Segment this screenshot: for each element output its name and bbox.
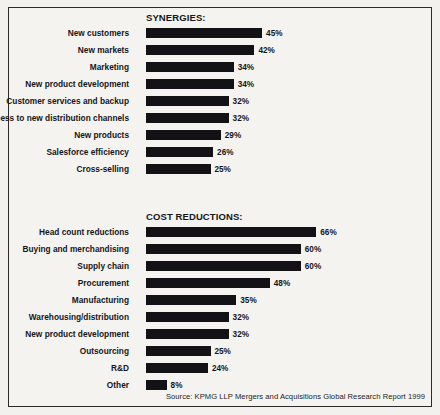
bar-category-label: New products [0, 130, 129, 140]
bar-value-label: 32% [233, 114, 249, 123]
bar [146, 227, 316, 237]
bar-category-label: New product development [0, 79, 129, 89]
chart-figure: SYNERGIES: New customers45%New markets42… [0, 0, 440, 415]
bar [146, 96, 229, 106]
bar-category-label: Manufacturing [0, 295, 129, 305]
bar-track: 32% [146, 328, 427, 340]
bar-value-label: 32% [233, 313, 249, 322]
bar-value-label: 42% [258, 46, 274, 55]
bar-value-label: 32% [233, 330, 249, 339]
bar [146, 130, 221, 140]
bar-track: 32% [146, 95, 427, 107]
bar-row: Supply chain60% [9, 259, 431, 276]
bar-category-label: Supply chain [0, 261, 129, 271]
bar-track: 25% [146, 345, 427, 357]
bar-value-label: 25% [215, 165, 231, 174]
bar-track: 25% [146, 163, 427, 175]
bar-category-label: Marketing [0, 62, 129, 72]
bar-value-label: 25% [215, 347, 231, 356]
bar [146, 346, 211, 356]
bar-value-label: 34% [238, 80, 254, 89]
bar-track: 48% [146, 277, 427, 289]
bar-track: 66% [146, 226, 427, 238]
bar-category-label: Salesforce efficiency [0, 147, 129, 157]
chart-frame: SYNERGIES: New customers45%New markets42… [8, 7, 432, 407]
bar-category-label: Outsourcing [0, 346, 129, 356]
bar-category-label: Head count reductions [0, 227, 129, 237]
bar-track: 26% [146, 146, 427, 158]
bar [146, 113, 229, 123]
source-note: Source: KPMG LLP Mergers and Acquisition… [166, 392, 425, 401]
bar-rows-synergies: New customers45%New markets42%Marketing3… [9, 26, 431, 179]
bar-row: Marketing34% [9, 60, 431, 77]
bar-category-label: Buying and merchandising [0, 244, 129, 254]
bar-category-label: Warehousing/distribution [0, 312, 129, 322]
bar [146, 244, 301, 254]
bar-track: 32% [146, 112, 427, 124]
bar-value-label: 24% [212, 364, 228, 373]
bar-value-label: 29% [225, 131, 241, 140]
bar-row: Buying and merchandising60% [9, 242, 431, 259]
bar-row: Manufacturing35% [9, 293, 431, 310]
bar-row: Outsourcing25% [9, 344, 431, 361]
bar [146, 329, 229, 339]
bar-track: 42% [146, 44, 427, 56]
bar-category-label: Procurement [0, 278, 129, 288]
bar-row: Salesforce efficiency26% [9, 145, 431, 162]
bar [146, 164, 211, 174]
bar-category-label: New customers [0, 28, 129, 38]
bar-track: 32% [146, 311, 427, 323]
bar-value-label: 45% [266, 29, 282, 38]
bar-row: New customers45% [9, 26, 431, 43]
bar-track: 29% [146, 129, 427, 141]
panel-title-synergies: SYNERGIES: [146, 12, 206, 23]
bar-track: 8% [146, 379, 427, 391]
bar-track: 60% [146, 260, 427, 272]
bar-track: 34% [146, 61, 427, 73]
bar-row: Head count reductions66% [9, 225, 431, 242]
bar [146, 312, 229, 322]
bar [146, 380, 167, 390]
bar [146, 261, 301, 271]
bar-category-label: R&D [0, 363, 129, 373]
bar-row: New markets42% [9, 43, 431, 60]
bar-row: Access to new distribution channels32% [9, 111, 431, 128]
bar-track: 60% [146, 243, 427, 255]
bar-value-label: 26% [217, 148, 233, 157]
bar-row: New product development34% [9, 77, 431, 94]
bar [146, 45, 254, 55]
bar-track: 34% [146, 78, 427, 90]
bar-category-label: New markets [0, 45, 129, 55]
bar [146, 62, 234, 72]
bar-category-label: New product development [0, 329, 129, 339]
bar [146, 28, 262, 38]
bar-row: R&D24% [9, 361, 431, 378]
panel-title-cost-reductions: COST REDUCTIONS: [146, 211, 243, 222]
bar-value-label: 32% [233, 97, 249, 106]
bar-row: New product development32% [9, 327, 431, 344]
bar-row: Customer services and backup32% [9, 94, 431, 111]
bar [146, 79, 234, 89]
bar-value-label: 34% [238, 63, 254, 72]
bar-value-label: 8% [171, 381, 183, 390]
bar [146, 295, 236, 305]
bar [146, 278, 270, 288]
bar-row: Cross-selling25% [9, 162, 431, 179]
bar-track: 24% [146, 362, 427, 374]
bar-rows-cost-reductions: Head count reductions66%Buying and merch… [9, 225, 431, 395]
bar-value-label: 66% [320, 228, 336, 237]
bar-value-label: 48% [274, 279, 290, 288]
bar-row: Warehousing/distribution32% [9, 310, 431, 327]
bar-category-label: Other [0, 380, 129, 390]
bar-track: 35% [146, 294, 427, 306]
bar-track: 45% [146, 27, 427, 39]
bar-category-label: Customer services and backup [0, 96, 129, 106]
bar-category-label: Cross-selling [0, 164, 129, 174]
bar [146, 363, 208, 373]
bar-category-label: Access to new distribution channels [0, 113, 129, 123]
bar [146, 147, 213, 157]
bar-row: Procurement48% [9, 276, 431, 293]
bar-value-label: 35% [240, 296, 256, 305]
bar-row: New products29% [9, 128, 431, 145]
bar-value-label: 60% [305, 262, 321, 271]
